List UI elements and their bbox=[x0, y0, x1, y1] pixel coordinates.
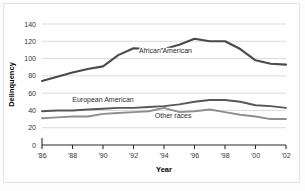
y-axis-label: Delinquency bbox=[7, 61, 16, 106]
x-tick-label: '94 bbox=[159, 152, 168, 159]
x-tick-label: '92 bbox=[129, 152, 138, 159]
y-tick-label: 80 bbox=[28, 72, 36, 79]
y-tick-label: 40 bbox=[28, 107, 36, 114]
y-tick-label: 120 bbox=[24, 38, 36, 45]
series-label-1: European American bbox=[72, 96, 134, 104]
x-tick-label: '86 bbox=[37, 152, 46, 159]
x-tick-label: '88 bbox=[68, 152, 77, 159]
x-axis-label: Year bbox=[156, 165, 172, 174]
y-tick-label: 20 bbox=[28, 124, 36, 131]
x-tick-label: '02 bbox=[281, 152, 290, 159]
x-tick-label: '96 bbox=[190, 152, 199, 159]
y-tick-label: 100 bbox=[24, 55, 36, 62]
x-tick-label: '98 bbox=[220, 152, 229, 159]
series-label-0: African American bbox=[139, 47, 192, 54]
x-tick-label: '00 bbox=[251, 152, 260, 159]
y-tick-label: 0 bbox=[32, 142, 36, 149]
x-tick-label: '90 bbox=[98, 152, 107, 159]
y-tick-label: 60 bbox=[28, 90, 36, 97]
y-tick-label: 140 bbox=[24, 21, 36, 28]
series-line-0 bbox=[42, 39, 286, 81]
series-label-2: Other races bbox=[155, 112, 192, 119]
chart-figure: 020406080100120140Delinquency'86'88'90'9… bbox=[0, 0, 305, 191]
line-chart: 020406080100120140Delinquency'86'88'90'9… bbox=[0, 0, 305, 191]
